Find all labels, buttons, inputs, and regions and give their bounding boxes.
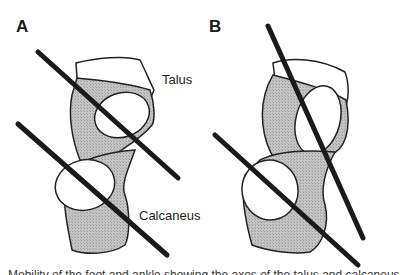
panel-a-drawing <box>18 52 178 255</box>
panel-b-drawing <box>215 26 363 265</box>
talus-label: Talus <box>162 72 192 87</box>
calcaneus-label: Calcaneus <box>139 208 200 223</box>
figure-caption: Mobility of the foot and ankle showing t… <box>8 268 400 275</box>
panel-label-b: B <box>209 17 221 37</box>
panel-label-a: A <box>16 17 28 37</box>
